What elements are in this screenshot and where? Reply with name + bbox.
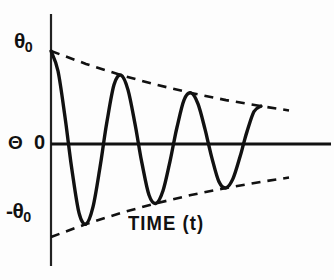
theta-subscript-top: 0 (25, 39, 33, 55)
plot-canvas (0, 0, 334, 280)
y-tick-label-zero: 0 (34, 132, 45, 152)
damped-oscillation-curve (51, 51, 261, 224)
y-axis-title: Θ (8, 133, 23, 152)
x-axis-title-main: TIME ( (128, 211, 190, 234)
x-axis-title: TIME (t) (128, 212, 204, 233)
damped-oscillation-figure: Θ θ0 0 -θ0 TIME (t) (0, 0, 334, 280)
time-word: TIME ( (128, 211, 190, 234)
upper-envelope-curve (51, 51, 289, 110)
theta-symbol-top: θ (14, 29, 25, 52)
theta-subscript-bottom: 0 (23, 209, 31, 225)
x-axis-title-close: ) (197, 211, 204, 234)
y-tick-label-theta-zero-negative: -θ0 (6, 200, 31, 224)
y-tick-label-theta-zero-positive: θ0 (14, 30, 33, 54)
theta-symbol-bottom: -θ (6, 199, 23, 222)
